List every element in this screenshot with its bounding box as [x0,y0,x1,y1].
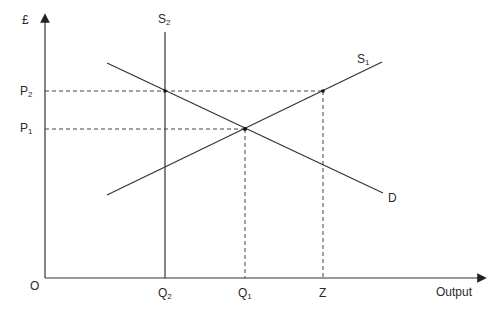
s1-label: S1 [357,53,369,67]
p1-label: P1 [20,122,32,136]
q2-label: Q2 [158,287,172,301]
y-axis-label: £ [22,14,29,26]
d-label: D [388,192,397,204]
p2-label: P2 [20,85,32,99]
x-axis-label: Output [436,286,472,298]
supply-demand-diagram [0,0,503,312]
point-equilibrium [243,127,247,131]
point-s2-d [163,89,167,93]
q1-label: Q1 [238,287,252,301]
z-label: Z [319,287,326,299]
origin-label: O [30,280,39,292]
s2-label: S2 [158,13,170,27]
point-s1-p2 [321,89,325,93]
